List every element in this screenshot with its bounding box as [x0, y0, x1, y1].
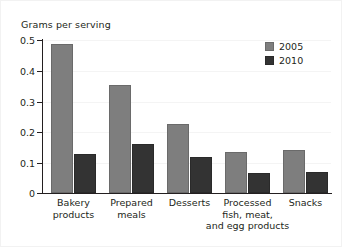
- bar-2010[interactable]: [132, 144, 154, 193]
- x-axis-label: Snacks: [261, 197, 342, 209]
- y-tick-label-0.4: 0.4: [20, 66, 35, 77]
- bar-2010[interactable]: [74, 154, 96, 193]
- bar-group: [51, 40, 96, 193]
- y-tick-mark-0: [37, 193, 43, 194]
- legend-label-2005: 2005: [279, 41, 303, 52]
- y-tick-label-0.2: 0.2: [20, 127, 35, 138]
- legend-item-2010[interactable]: 2010: [265, 55, 327, 66]
- y-tick-label-0.1: 0.1: [20, 158, 35, 169]
- legend-swatch-2005-icon: [265, 42, 274, 51]
- bar-2005[interactable]: [109, 85, 131, 193]
- bar-group: [167, 40, 212, 193]
- bar-2010[interactable]: [306, 172, 328, 193]
- legend: 2005 2010: [265, 41, 327, 69]
- y-tick-label-0.3: 0.3: [20, 97, 35, 108]
- bar-2005[interactable]: [167, 124, 189, 193]
- bar-2005[interactable]: [283, 150, 305, 193]
- bar-group: [109, 40, 154, 193]
- legend-label-2010: 2010: [279, 55, 303, 66]
- legend-swatch-2010-icon: [265, 56, 274, 65]
- y-tick-label-0.5: 0.5: [20, 35, 35, 46]
- bar-chart-figure: Grams per serving 0.5 0.4 0.3 0.2 0.1 0 …: [0, 0, 342, 247]
- bar-group: [225, 40, 270, 193]
- bar-2005[interactable]: [51, 44, 73, 193]
- bar-2005[interactable]: [225, 152, 247, 193]
- bar-2010[interactable]: [248, 173, 270, 194]
- legend-item-2005[interactable]: 2005: [265, 41, 327, 52]
- x-axis-line: [42, 193, 332, 194]
- bar-2010[interactable]: [190, 157, 212, 193]
